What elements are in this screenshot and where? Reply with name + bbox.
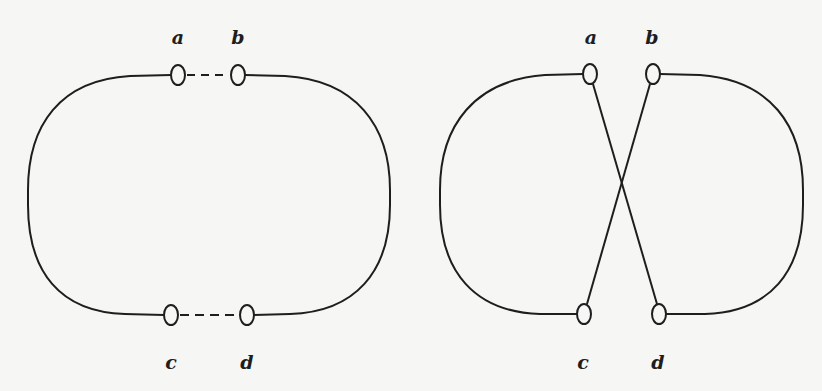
- left-arc-a-to-c: [440, 74, 583, 314]
- node-b-right: [646, 64, 660, 84]
- right-arc-b-to-d: [245, 75, 390, 315]
- node-c-right: [577, 304, 591, 324]
- node-d-left: [240, 305, 254, 325]
- diagram-canvas: a b c d a b c d: [0, 0, 822, 391]
- label-d-left: d: [240, 353, 253, 372]
- node-d-right: [652, 304, 666, 324]
- edge-a-to-d: [593, 84, 657, 304]
- label-b-left: b: [231, 28, 244, 47]
- diagram-svg: [0, 0, 822, 391]
- label-c-left: c: [165, 353, 177, 372]
- label-b-right: b: [645, 28, 658, 47]
- left-diagram: [28, 65, 390, 325]
- node-a-right: [583, 64, 597, 84]
- left-arc-a-to-c: [28, 75, 171, 315]
- edge-b-to-c: [587, 84, 650, 304]
- right-diagram: [440, 64, 803, 324]
- right-arc-b-to-d: [660, 74, 803, 314]
- label-a-left: a: [172, 28, 184, 47]
- node-c-left: [164, 305, 178, 325]
- node-b-left: [231, 65, 245, 85]
- node-a-left: [171, 65, 185, 85]
- label-d-right: d: [651, 353, 664, 372]
- label-c-right: c: [577, 353, 589, 372]
- label-a-right: a: [585, 28, 597, 47]
